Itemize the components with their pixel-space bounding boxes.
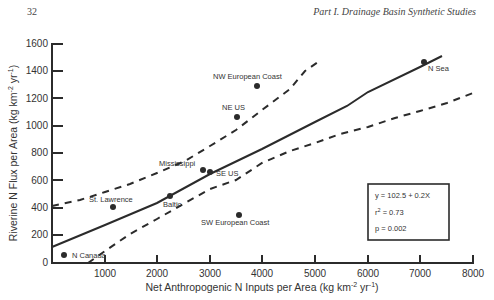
point-label: N Canada (72, 251, 107, 260)
y-tick-label: 0 (42, 257, 48, 268)
point-label: Mississippi (159, 159, 196, 168)
x-axis-title: Net Anthropogenic N Inputs per Area (kg … (145, 281, 378, 293)
x-tick-label: 8000 (462, 268, 485, 279)
point-label: SW European Coast (201, 218, 270, 227)
y-tick-label: 400 (31, 202, 48, 213)
point-label: NW European Coast (213, 72, 283, 81)
y-tick-label: 200 (31, 229, 48, 240)
x-tick-label: 7000 (409, 268, 432, 279)
data-point-n-sea (421, 59, 427, 65)
data-point-st-lawrence (110, 204, 116, 210)
x-tick-label: 2000 (146, 268, 169, 279)
p-value: p = 0.002 (375, 224, 407, 233)
y-tick-labels: 0 200 400 600 800 1000 1200 1400 1600 (26, 38, 49, 268)
data-point-se-us (207, 169, 213, 175)
y-tick-label: 1000 (26, 120, 49, 131)
point-label: N Sea (428, 64, 450, 73)
x-tick-labels: 1000 2000 3000 4000 5000 6000 7000 8000 (94, 268, 485, 279)
x-axis (51, 255, 474, 263)
point-label: St. Lawrence (89, 195, 133, 204)
x-tick-label: 6000 (357, 268, 380, 279)
point-label: SE US (216, 169, 239, 178)
y-axis-title: Riverine N Flux per Area (kg km-2 yr-1) (7, 65, 19, 241)
x-tick-label: 1000 (94, 268, 117, 279)
x-tick-label: 5000 (304, 268, 327, 279)
y-tick-label: 800 (31, 147, 48, 158)
data-point-mississippi (200, 167, 206, 173)
regression-stats-box: y = 102.5 + 0.2X r2 = 0.73 p = 0.002 (368, 184, 449, 240)
upper-confidence-band (52, 62, 318, 206)
y-axis (52, 43, 63, 263)
regression-equation: y = 102.5 + 0.2X (375, 191, 430, 200)
point-label: NE US (222, 103, 245, 112)
data-point-ne-us (234, 114, 240, 120)
y-tick-label: 1600 (26, 38, 49, 49)
y-tick-label: 1400 (26, 65, 49, 76)
data-point-baltic (167, 193, 173, 199)
x-tick-label: 3000 (199, 268, 222, 279)
scatter-chart: 0 200 400 600 800 1000 1200 1400 1600 10… (0, 0, 494, 300)
y-tick-label: 1200 (26, 93, 49, 104)
data-point-n-canada (61, 252, 67, 258)
point-label: Baltic (163, 200, 182, 209)
y-tick-label: 600 (31, 175, 48, 186)
x-tick-label: 4000 (251, 268, 274, 279)
data-point-nw-european-coast (254, 83, 260, 89)
